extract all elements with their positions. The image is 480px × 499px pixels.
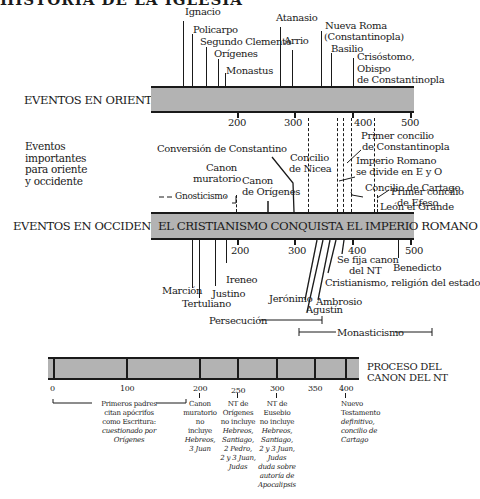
note-line: 2 Pedro, [218, 445, 258, 454]
canon-stub [237, 393, 238, 398]
note-line: no [182, 418, 218, 427]
canon-tick-label: 0 [50, 383, 55, 394]
event-label: León el Grande [380, 201, 454, 212]
canon-tick-label: 250 [231, 385, 245, 396]
canon-tick-label: 300 [270, 383, 284, 394]
note-line: Testamento [341, 409, 385, 418]
event-label: de Constantinopla [362, 141, 449, 152]
canon-tick [314, 357, 316, 380]
event-label: Imperio Romano [356, 155, 436, 166]
note-line: Judas [218, 463, 258, 472]
note-line: muratorio [182, 409, 218, 418]
note-line: Judas [257, 454, 297, 463]
note-line: NT de [257, 400, 297, 409]
section-label-line: CANON DEL NT [367, 372, 448, 383]
event-label-gnosticismo: Gnosticismo [175, 191, 228, 202]
tick-label: 500 [405, 245, 423, 256]
event-label: del NT [349, 265, 381, 276]
canon-tick [199, 357, 201, 380]
canon-tick-label: 200 [193, 383, 207, 394]
note-line: Orígenes [96, 436, 162, 445]
note-line: Hebreos, [257, 427, 297, 436]
event-line-justino [215, 240, 216, 286]
canon-stub [345, 393, 346, 398]
section-label-occidente: EVENTOS EN OCCIDENTE [13, 219, 166, 233]
event-label: Jerónimo [269, 293, 312, 304]
canon-tick-label: 100 [120, 383, 134, 394]
canon-stub [199, 393, 200, 398]
note-line: duda sobre [257, 463, 297, 472]
canon-note: Primeros padres citan apócrifos como Esc… [96, 400, 162, 445]
note-line: Hebreos, [182, 436, 218, 445]
bar-title: EL CRISTIANISMO CONQUISTA EL IMPERIO ROM… [158, 219, 477, 233]
note-line: autoría de [257, 472, 297, 481]
note-line: 3 Juan [182, 445, 218, 454]
note-line: incluye [182, 427, 218, 436]
event-label: Se fija canon [337, 254, 399, 265]
canon-tick [53, 357, 55, 380]
event-label: Canon [206, 162, 237, 173]
event-label: muratorio [193, 173, 241, 184]
canon-stub [276, 393, 277, 398]
canon-tick [126, 357, 128, 380]
period-label: Monasticismo [337, 327, 404, 338]
note-line: Apocalipsis [257, 481, 297, 490]
note-line: 2 y 3 Juan, [218, 454, 258, 463]
event-line-marcion [192, 240, 193, 288]
note-line: Nuevo [341, 400, 385, 409]
canon-tick [345, 357, 347, 380]
timeline-bar-canon [48, 357, 359, 380]
canon-tick [276, 357, 278, 380]
note-line: no incluye [257, 418, 297, 427]
event-label: Benedicto [393, 262, 441, 273]
canon-note: Canon muratorio no incluye Hebreos, 3 Ju… [182, 400, 218, 454]
event-label: Cristianismo, religión del estado [325, 277, 480, 288]
event-label: Marción [162, 285, 202, 296]
tick-label: 200 [231, 245, 249, 256]
note-line: Cartago [341, 436, 385, 445]
event-label: Primer concilio [361, 130, 434, 141]
event-label: Canon [242, 175, 273, 186]
note-line: cuestionado por [96, 427, 162, 436]
note-line: concilio de [341, 427, 385, 436]
event-label: Concilio [290, 152, 329, 163]
note-line: citan apócrifos [96, 409, 162, 418]
note-line: definitivo, [341, 418, 385, 427]
event-label: Ireneo [226, 274, 257, 285]
canon-tick-label: 350 [308, 383, 322, 394]
note-line: Hebreos, [218, 427, 258, 436]
canon-note: Nuevo Testamento definitivo, concilio de… [341, 400, 385, 445]
note-line: 2 y 3 Juan, [257, 445, 297, 454]
note-line: como Escritura: [96, 418, 162, 427]
event-label: Primer concilio [391, 186, 464, 197]
event-line-ireneo [226, 240, 227, 263]
note-line: no incluye [218, 418, 258, 427]
note-line: Santiago, [257, 436, 297, 445]
event-label: Conversión de Constantino [157, 143, 287, 154]
note-line: Eusebio [257, 409, 297, 418]
event-label: se divide en E y O [356, 166, 442, 177]
event-label: Justino [212, 288, 245, 299]
canon-note: NT de Orígenes no incluye Hebreos, Santi… [218, 400, 258, 472]
event-label: de Orígenes [242, 186, 300, 197]
canon-note: NT de Eusebio no incluye Hebreos, Santia… [257, 400, 297, 490]
note-line: Primeros padres [96, 400, 162, 409]
note-line: Santiago, [218, 436, 258, 445]
canon-tick [237, 357, 239, 380]
event-label: Tertuliano [182, 298, 231, 309]
note-line: Canon [182, 400, 218, 409]
tick-label: 300 [288, 245, 306, 256]
event-label: Ambrosio [316, 296, 362, 307]
section-label-line: PROCESO DEL [367, 361, 448, 372]
period-label: Persecución [209, 315, 267, 326]
note-line: NT de [218, 400, 258, 409]
section-label-canon: PROCESO DEL CANON DEL NT [367, 361, 448, 383]
note-line: Orígenes [218, 409, 258, 418]
event-label: de Nicea [289, 163, 332, 174]
canon-tick-label: 400 [339, 383, 353, 394]
